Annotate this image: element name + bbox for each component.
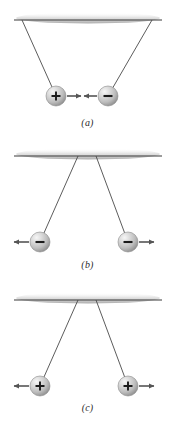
charge-b-negative-right <box>118 232 138 252</box>
panel-caption-a: (a) <box>0 117 175 128</box>
ceiling-shadow-b <box>16 149 160 160</box>
panel-caption-b: (b) <box>0 259 175 270</box>
charge-a-negative <box>98 86 118 106</box>
ceiling-shadow-a <box>16 13 160 24</box>
panel-caption-c: (c) <box>0 402 175 413</box>
charge-c-positive-left <box>30 376 50 396</box>
ceiling-c <box>14 293 162 304</box>
string-b-left <box>40 156 78 242</box>
charge-b-negative-left <box>30 232 50 252</box>
string-a-left <box>22 20 56 96</box>
panel-c <box>14 293 162 397</box>
ceiling-shadow-c <box>16 293 160 304</box>
charge-c-positive-right <box>118 376 138 396</box>
panel-a <box>14 13 162 107</box>
ceiling-b <box>14 149 162 160</box>
charge-a-positive <box>46 86 66 106</box>
ceiling-a <box>14 13 162 24</box>
string-c-right <box>96 300 128 386</box>
panel-b <box>14 149 162 253</box>
string-a-right <box>108 20 152 96</box>
string-c-left <box>40 300 78 386</box>
string-b-right <box>96 156 128 242</box>
charged-spheres-figure <box>0 0 175 425</box>
